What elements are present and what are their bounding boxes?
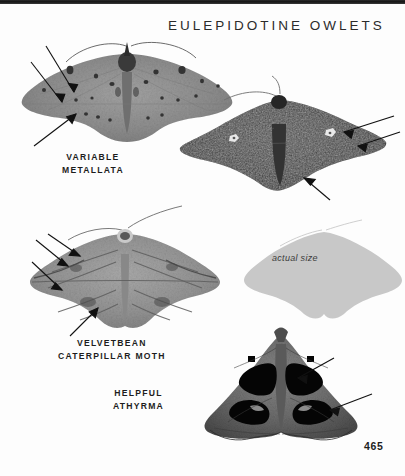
- pointer-arrows-dark-owlet: [168, 78, 403, 203]
- top-rule-divider: [0, 0, 405, 4]
- caption-line-2: CATERPILLAR MOTH: [58, 350, 166, 363]
- caption-helpful-athyrma: HELPFUL ATHYRMA: [113, 387, 164, 413]
- caption-line-2: METALLATA: [62, 164, 124, 177]
- pointer-arrows-velvetbean-caterpillar-moth: [18, 212, 233, 337]
- caption-line-2: ATHYRMA: [113, 400, 164, 413]
- actual-size-silhouette: [244, 218, 404, 323]
- pointer-arrows-helpful-athyrma: [186, 328, 386, 456]
- actual-size-label: actual size: [272, 253, 318, 263]
- book-plate-page: EULEPIDOTINE OWLETS: [0, 0, 405, 476]
- caption-line-1: VARIABLE: [62, 151, 124, 164]
- caption-variable-metallata: VARIABLE METALLATA: [62, 151, 124, 177]
- page-number: 465: [364, 440, 383, 452]
- caption-line-1: VELVETBEAN: [58, 337, 166, 350]
- caption-velvetbean-caterpillar-moth: VELVETBEAN CATERPILLAR MOTH: [58, 337, 166, 363]
- caption-line-1: HELPFUL: [113, 387, 164, 400]
